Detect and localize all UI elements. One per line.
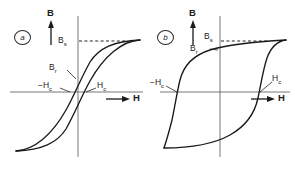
label-br-subscript: r	[55, 68, 57, 74]
br-leader-line	[67, 70, 76, 79]
panel-tag-a: a	[14, 30, 31, 45]
neg-hc-leader-line	[166, 86, 177, 92]
y-axis-label-b: B	[189, 8, 196, 18]
panel-b: b B H Bs Br −Hc Hc	[148, 0, 295, 172]
loop-branch-descending	[164, 40, 286, 148]
label-saturation-bs: Bs	[204, 32, 213, 43]
hc-leader-line	[260, 82, 272, 92]
label-hc-subscript: c	[278, 79, 281, 85]
label-positive-coercivity: Hc	[97, 81, 106, 92]
b-axis-arrow-head	[190, 20, 196, 28]
label-bs-subscript: s	[210, 37, 213, 43]
b-axis-arrow-head	[48, 20, 54, 28]
label-negative-coercivity: −Hc	[150, 78, 164, 89]
label-neg-hc-base: −H	[38, 80, 49, 90]
hc-leader-line	[86, 88, 96, 92]
label-neg-hc-base: −H	[150, 77, 161, 87]
panel-tag-b: b	[157, 30, 174, 45]
label-saturation-bs: Bs	[58, 36, 67, 47]
label-bs-subscript: s	[64, 41, 67, 47]
label-hc-subscript: c	[103, 86, 106, 92]
panel-b-plot	[148, 0, 295, 172]
panel-a-plot	[0, 0, 147, 172]
panel-a: a B H Bs Br −Hc Hc	[0, 0, 147, 172]
label-neg-hc-subscript: c	[161, 83, 164, 89]
y-axis-label-b: B	[47, 8, 54, 18]
hysteresis-figure: a B H Bs Br −Hc Hc	[0, 0, 295, 172]
label-neg-hc-subscript: c	[49, 86, 52, 92]
label-negative-coercivity: −Hc	[38, 81, 52, 92]
label-positive-coercivity: Hc	[272, 74, 281, 85]
x-axis-label-h: H	[278, 93, 285, 103]
label-br-subscript: r	[196, 49, 198, 55]
label-remanence-br: Br	[190, 44, 198, 55]
label-remanence-br: Br	[49, 63, 57, 74]
h-axis-arrow-head	[267, 96, 275, 102]
x-axis-label-h: H	[133, 93, 140, 103]
h-axis-arrow-head	[122, 96, 130, 102]
neg-hc-leader-line	[60, 88, 70, 92]
